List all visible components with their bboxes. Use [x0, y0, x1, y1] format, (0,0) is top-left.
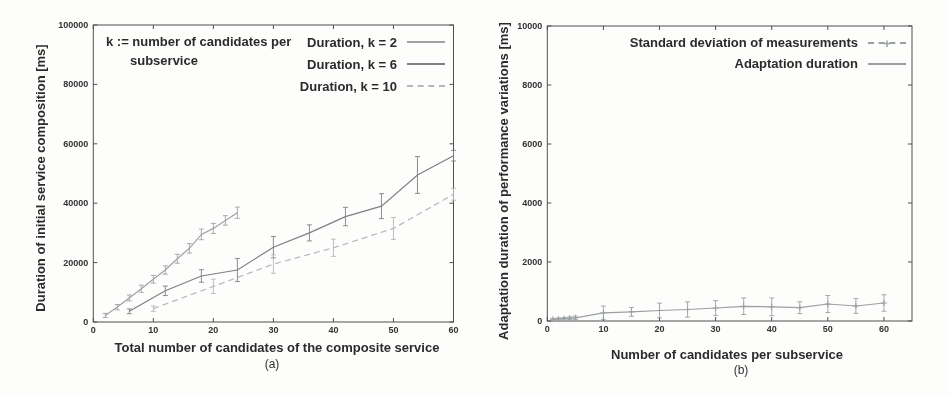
chart-a-caption: (a) [265, 357, 280, 371]
x-tick-label: 0 [545, 324, 550, 334]
dashed-line-sample-icon [407, 85, 445, 87]
chart-b-caption: (b) [734, 363, 749, 377]
y-tick-label: 8000 [522, 80, 542, 90]
x-tick-label: 40 [328, 325, 338, 335]
legend-label: Duration, k = 6 [307, 57, 397, 72]
series-duration-k-2 [103, 207, 240, 317]
chart-a-x-axis-label: Total number of candidates of the compos… [115, 340, 440, 355]
series-line [153, 194, 453, 308]
series-line [129, 156, 453, 312]
x-tick-label: 50 [388, 325, 398, 335]
x-tick-label: 60 [448, 325, 458, 335]
chart-b-x-axis-label: Number of candidates per subservice [611, 347, 843, 362]
x-tick-label: 50 [823, 324, 833, 334]
y-tick-label: 0 [83, 317, 88, 327]
x-tick-label: 10 [598, 324, 608, 334]
figure: 0102030405060020000400006000080000100000… [0, 0, 950, 395]
chart-b-legend: Standard deviation of measurements + Ada… [556, 32, 906, 74]
series-duration-k-10 [151, 188, 456, 311]
line-sample-icon [407, 63, 445, 65]
y-tick-label: 4000 [522, 198, 542, 208]
y-tick-label: 100000 [58, 20, 88, 30]
legend-label: Duration, k = 10 [300, 79, 397, 94]
y-tick-label: 2000 [522, 257, 542, 267]
x-tick-label: 20 [655, 324, 665, 334]
series-duration-k-6 [127, 150, 456, 313]
y-tick-label: 40000 [63, 198, 88, 208]
x-tick-label: 30 [711, 324, 721, 334]
legend-label: Adaptation duration [735, 56, 859, 71]
legend-label: Standard deviation of measurements [630, 35, 858, 50]
legend-label: Duration, k = 2 [307, 35, 397, 50]
line-sample-icon [868, 63, 906, 65]
chart-b-y-axis-label: Adaptation duration of performance varia… [496, 22, 511, 340]
y-tick-label: 0 [537, 316, 542, 326]
legend-entry-k6: Duration, k = 6 [250, 53, 445, 75]
chart-a-legend: Duration, k = 2 Duration, k = 6 Duration… [250, 31, 445, 97]
legend-entry-k10: Duration, k = 10 [250, 75, 445, 97]
x-tick-label: 30 [268, 325, 278, 335]
chart-a-y-axis-label: Duration of initial service composition … [33, 44, 48, 311]
y-tick-label: 80000 [63, 79, 88, 89]
x-tick-label: 60 [879, 324, 889, 334]
line-sample-icon [407, 41, 445, 43]
legend-entry-k2: Duration, k = 2 [250, 31, 445, 53]
legend-entry-stddev: Standard deviation of measurements + [556, 32, 906, 53]
y-tick-label: 60000 [63, 139, 88, 149]
x-tick-label: 20 [208, 325, 218, 335]
y-tick-label: 6000 [522, 139, 542, 149]
plus-marker-icon: + [883, 37, 891, 50]
y-tick-label: 20000 [63, 258, 88, 268]
series-line [105, 213, 237, 316]
legend-entry-adaptation: Adaptation duration [556, 53, 906, 74]
x-tick-label: 40 [767, 324, 777, 334]
y-tick-label: 10000 [517, 21, 542, 31]
series-adaptation-duration [550, 295, 887, 322]
x-tick-label: 0 [91, 325, 96, 335]
series-line [553, 303, 884, 319]
plus-line-sample-icon: + [868, 42, 906, 44]
x-tick-label: 10 [148, 325, 158, 335]
